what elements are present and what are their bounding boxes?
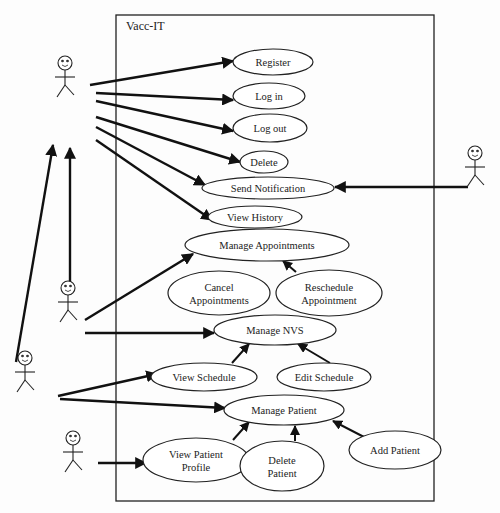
use-case-label: View History	[227, 212, 284, 223]
use-case-label: Appointment	[301, 295, 356, 306]
use-case-view-schedule[interactable]: View Schedule	[151, 363, 257, 391]
use-case-ellipse	[143, 438, 249, 482]
include-arrow	[333, 421, 364, 437]
use-case-label: Patient	[267, 468, 296, 479]
use-case-ellipse	[240, 441, 324, 491]
actor-3-icon	[15, 351, 35, 392]
use-case-label: Appointments	[189, 295, 249, 306]
use-case-ellipse	[276, 270, 382, 316]
use-case-label: Send Notification	[231, 183, 306, 194]
include-arrow	[283, 261, 296, 272]
use-case-register[interactable]: Register	[233, 49, 313, 75]
use-case-view-history[interactable]: View History	[208, 206, 302, 228]
use-case-send-notification[interactable]: Send Notification	[202, 177, 334, 199]
include-arrow	[232, 344, 249, 363]
use-case-label: Delete	[268, 455, 296, 466]
actor-4-icon	[63, 431, 83, 472]
use-case-delete-patient[interactable]: DeletePatient	[240, 441, 324, 491]
use-case-delete[interactable]: Delete	[240, 151, 288, 173]
use-case-label: Reschedule	[305, 282, 354, 293]
use-case-diagram: Vacc-IT RegisterLog inLog outDeleteSend …	[0, 0, 500, 513]
use-case-view-patient-profile[interactable]: View PatientProfile	[143, 438, 249, 482]
use-case-label: Profile	[182, 462, 211, 473]
use-case-logout[interactable]: Log out	[233, 114, 307, 142]
use-case-label: Cancel	[204, 282, 233, 293]
association-arrow	[60, 399, 225, 408]
use-case-add-patient[interactable]: Add Patient	[349, 431, 441, 469]
use-case-label: Delete	[250, 157, 278, 168]
association-arrow	[90, 61, 233, 85]
use-case-label: Manage Appointments	[219, 240, 314, 251]
use-case-label: Add Patient	[370, 445, 420, 456]
actor-1-icon	[55, 56, 75, 97]
use-case-label: Log out	[254, 123, 287, 134]
use-case-ellipse	[168, 271, 270, 315]
use-case-label: Log in	[255, 91, 283, 102]
use-case-manage-nvs[interactable]: Manage NVS	[214, 315, 336, 345]
include-arrow	[233, 422, 249, 440]
system-title: Vacc-IT	[126, 19, 165, 33]
association-arrow	[58, 374, 157, 396]
association-arrow	[16, 145, 53, 362]
use-case-reschedule-appointment[interactable]: RescheduleAppointment	[276, 270, 382, 316]
use-case-manage-appointments[interactable]: Manage Appointments	[185, 229, 349, 261]
diagram-canvas: Vacc-IT RegisterLog inLog outDeleteSend …	[0, 0, 500, 513]
use-case-label: Register	[256, 57, 291, 68]
use-case-login[interactable]: Log in	[233, 83, 305, 109]
actor-2-icon	[58, 281, 78, 322]
actor-5-icon	[465, 146, 485, 187]
use-cases: RegisterLog inLog outDeleteSend Notifica…	[143, 49, 441, 491]
use-case-manage-patient[interactable]: Manage Patient	[224, 395, 344, 425]
use-case-label: View Schedule	[172, 372, 236, 383]
use-case-cancel-appointments[interactable]: CancelAppointments	[168, 271, 270, 315]
use-case-label: View Patient	[169, 449, 223, 460]
use-case-label: Manage Patient	[251, 405, 317, 416]
use-case-label: Manage NVS	[246, 325, 304, 336]
include-arrow	[298, 344, 330, 363]
use-case-edit-schedule[interactable]: Edit Schedule	[277, 363, 371, 391]
use-case-label: Edit Schedule	[295, 372, 354, 383]
